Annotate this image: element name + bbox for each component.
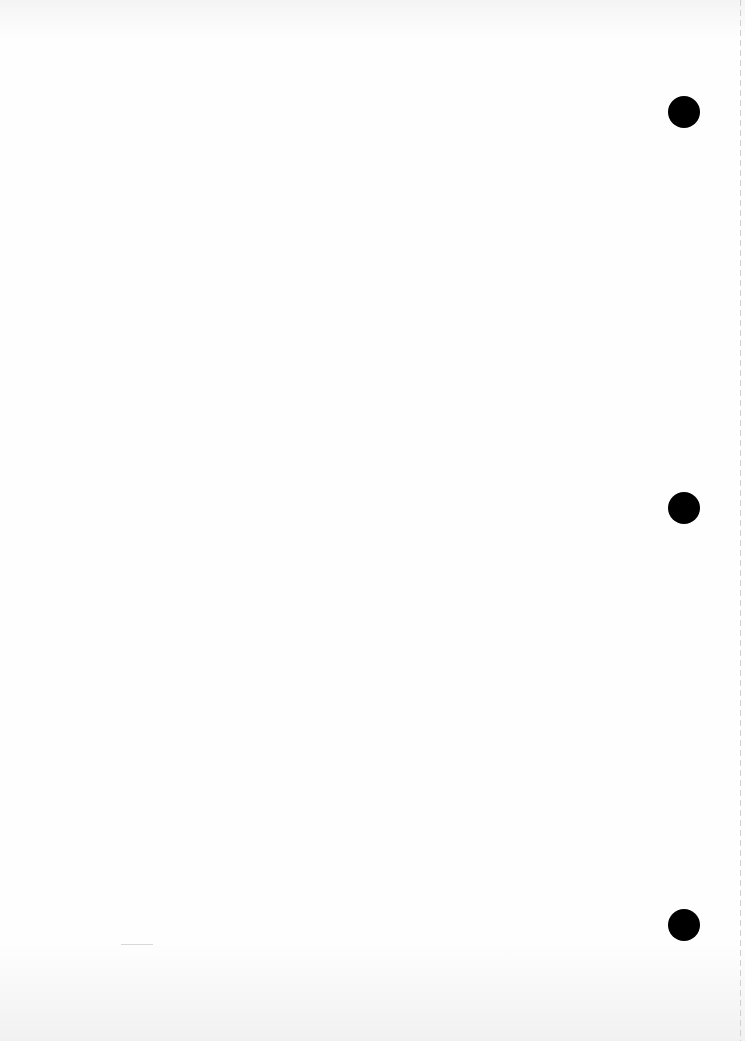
- page-edge-line: [740, 0, 741, 1041]
- blank-page: [0, 0, 745, 1041]
- punch-hole-top: [668, 96, 700, 128]
- faint-scan-mark: [121, 944, 153, 945]
- punch-hole-bottom: [668, 909, 700, 941]
- punch-hole-middle: [668, 492, 700, 524]
